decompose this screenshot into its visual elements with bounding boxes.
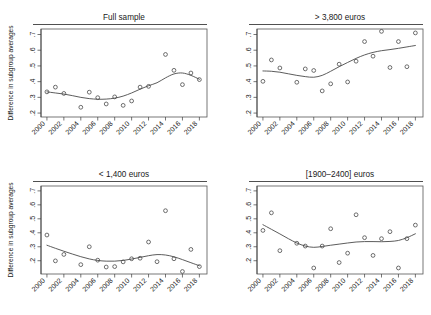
x-tick-label: 2000 [246, 120, 262, 136]
data-point [303, 67, 307, 71]
y-tick-label: .7 [245, 31, 252, 37]
y-tick-label: .3 [245, 244, 252, 250]
data-point [130, 99, 134, 103]
x-tick-label: 2008 [98, 277, 114, 293]
data-point [270, 211, 274, 215]
chart-panel-1900-2400: [1900–2400] euros.2.3.4.5.6.720002002200… [216, 157, 431, 314]
x-tick-label: 2018 [399, 120, 415, 136]
chart-panel-below-1400: < 1,400 euros.2.3.4.5.6.7Difference in s… [0, 157, 215, 314]
x-tick-label: 2012 [348, 277, 364, 293]
data-point [413, 31, 417, 35]
y-tick-label: .2 [29, 258, 36, 264]
y-axis-title: Difference in subgroup averages [7, 182, 15, 278]
data-point [79, 105, 83, 109]
x-tick-label: 2000 [246, 277, 262, 293]
y-tick-label: .6 [29, 202, 36, 208]
data-point [189, 71, 193, 75]
data-point [320, 89, 324, 93]
data-point [397, 40, 401, 44]
data-point [104, 265, 108, 269]
data-point [363, 236, 367, 240]
data-point [354, 59, 358, 63]
smoothed-trend-line [47, 73, 199, 99]
data-point [380, 237, 384, 241]
data-point [172, 68, 176, 72]
scatter-points [45, 209, 201, 274]
data-point [54, 85, 58, 89]
data-point [261, 229, 265, 233]
data-point [181, 83, 185, 87]
figure-panel-grid: Full sample.2.3.4.5.6.7Difference in sub… [0, 0, 431, 315]
x-tick-label: 2018 [183, 120, 199, 136]
data-point [346, 80, 350, 84]
data-point [138, 85, 142, 89]
data-point [189, 248, 193, 252]
data-point [104, 102, 108, 106]
x-tick-label: 2006 [297, 120, 313, 136]
data-point [371, 54, 375, 58]
data-point [337, 261, 341, 265]
data-point [397, 266, 401, 270]
data-point [312, 69, 316, 73]
y-tick-label: .5 [29, 63, 36, 69]
data-point [147, 240, 151, 244]
data-point [363, 40, 367, 44]
x-tick-label: 2014 [365, 277, 381, 293]
data-point [329, 227, 333, 231]
x-tick-label: 2004 [280, 277, 296, 293]
data-point [278, 66, 282, 70]
chart-svg-1900-2400: [1900–2400] euros.2.3.4.5.6.720002002200… [216, 157, 431, 314]
data-point [79, 263, 83, 267]
x-tick-label: 2002 [263, 277, 279, 293]
x-tick-label: 2012 [348, 120, 364, 136]
data-point [197, 265, 201, 269]
y-tick-label: .2 [29, 110, 36, 116]
chart-panel-full-sample: Full sample.2.3.4.5.6.7Difference in sub… [0, 0, 215, 157]
x-tick-label: 2008 [314, 120, 330, 136]
x-tick-label: 2006 [81, 120, 97, 136]
y-tick-label: .7 [29, 31, 36, 37]
x-tick-label: 2016 [166, 277, 182, 293]
x-tick-label: 2000 [30, 120, 46, 136]
y-tick-label: .6 [29, 47, 36, 53]
y-tick-label: .2 [245, 110, 252, 116]
data-point [62, 253, 66, 257]
data-point [405, 65, 409, 69]
smoothed-trend-line [263, 46, 415, 78]
data-point [346, 251, 350, 255]
data-point [388, 230, 392, 234]
y-tick-label: .3 [245, 94, 252, 100]
x-tick-label: 2010 [115, 120, 131, 136]
data-point [312, 266, 316, 270]
y-tick-label: .6 [245, 202, 252, 208]
x-tick-label: 2014 [149, 277, 165, 293]
data-point [270, 58, 274, 62]
panel-title: [1900–2400] euros [306, 170, 374, 179]
scatter-points [261, 29, 417, 92]
data-point [87, 245, 91, 249]
data-point [181, 270, 185, 274]
x-tick-label: 2008 [98, 120, 114, 136]
data-point [261, 79, 265, 83]
data-point [413, 223, 417, 227]
smoothed-trend-line [47, 245, 199, 266]
y-tick-label: .7 [29, 188, 36, 194]
plot-frame [41, 186, 207, 274]
x-tick-label: 2018 [183, 277, 199, 293]
y-tick-label: .6 [245, 47, 252, 53]
data-point [164, 53, 168, 57]
data-point [164, 209, 168, 213]
data-point [388, 66, 392, 70]
y-tick-label: .5 [245, 63, 252, 69]
x-tick-label: 2016 [166, 120, 182, 136]
data-point [113, 265, 117, 269]
x-tick-label: 2006 [81, 277, 97, 293]
scatter-points [261, 211, 417, 270]
y-tick-label: .4 [29, 230, 36, 236]
data-point [172, 257, 176, 261]
data-point [138, 256, 142, 260]
x-tick-label: 2014 [365, 120, 381, 136]
x-tick-label: 2012 [132, 277, 148, 293]
data-point [380, 29, 384, 33]
x-tick-label: 2016 [382, 120, 398, 136]
